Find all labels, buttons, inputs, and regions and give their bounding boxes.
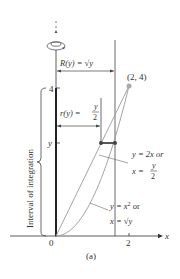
curve-label-leader [90,203,108,210]
washer-method-diagram: x 2 0 4 y R(y) = √y r(y) = y 2 (2, 4) y … [0,0,180,279]
rod-end-left [99,141,103,145]
line-label-1: y = 2x or [131,149,164,159]
x-tick-label-2: 2 [126,238,131,248]
x-axis-arrow-icon [158,234,163,238]
y-tick-label-4: 4 [49,84,54,94]
point-label: (2, 4) [127,72,147,82]
interval-brace [37,88,46,236]
outer-radius-label: R(y) = √y [59,58,93,68]
figure-caption: (a) [86,251,96,261]
y-tick-label-y: y [47,138,52,148]
inner-radius-label: r(y) = [60,108,81,118]
interval-label: Interval of integration [25,149,35,228]
origin-label: 0 [49,238,54,248]
line-label-2: x = [131,166,144,176]
inner-radius-num: y [93,102,98,111]
curve-label-1: y = x2 or [109,201,140,211]
point-2-4 [127,84,132,89]
curve-label-2: x = √y [109,216,132,226]
rod-end-right [113,141,117,145]
line-label-leader [99,155,128,163]
x-axis-label: x [164,231,169,241]
line-label-den: 2 [151,172,155,181]
inner-radius-den: 2 [93,113,97,122]
rotation-icon [47,21,65,50]
line-label-num: y [151,161,156,170]
